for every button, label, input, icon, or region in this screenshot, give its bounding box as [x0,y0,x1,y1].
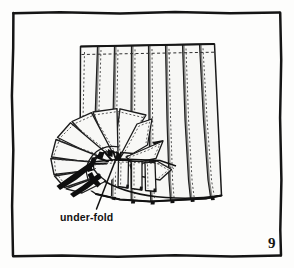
figure-page: under-fold 9 [0,0,294,268]
page-number: 9 [268,235,276,251]
figure-illustration: under-fold 9 [0,0,294,268]
rosette-pleat-tails [118,160,156,192]
under-fold-caption: under-fold [60,211,113,223]
